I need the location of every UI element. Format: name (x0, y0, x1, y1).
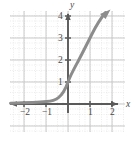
y-axis-label: y (70, 1, 74, 11)
exponential-function-graph: −2 −1 1 2 1 2 3 4 y x (0, 0, 135, 143)
x-axis-label: x (126, 100, 130, 110)
y-tick-label-2: 2 (58, 56, 63, 66)
y-tick-label-1: 1 (58, 78, 63, 88)
y-tick-label-3: 3 (58, 34, 63, 44)
x-tick-label-2: 2 (110, 108, 115, 118)
y-tick-label-4: 4 (58, 12, 63, 22)
x-tick-label-neg2: −2 (20, 108, 30, 118)
x-tick-label-1: 1 (88, 108, 93, 118)
x-tick-label-neg1: −1 (42, 108, 52, 118)
plot-canvas (0, 0, 135, 143)
